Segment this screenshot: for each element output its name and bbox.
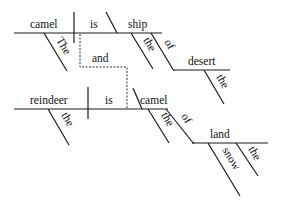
modifier-the-1: The xyxy=(54,35,74,57)
complement-1: ship xyxy=(128,18,147,31)
clause-1: camel is ship The the of desert the xyxy=(14,12,232,104)
verb-2: is xyxy=(105,94,113,106)
conjunction: and xyxy=(80,34,127,109)
complement-divider-1 xyxy=(106,12,117,33)
modifier-the-6: the xyxy=(246,144,264,162)
preposition-of-1: of xyxy=(162,37,177,52)
modifier-the-2: the xyxy=(141,35,159,53)
subject-2: reindeer xyxy=(30,94,68,106)
prep-object-land: land xyxy=(210,128,230,140)
conjunction-line xyxy=(80,34,127,109)
modifier-the-4: the xyxy=(59,110,77,128)
conjunction-and: and xyxy=(92,52,109,64)
verb-1: is xyxy=(90,18,98,30)
preposition-of-2: of xyxy=(179,111,194,126)
clause-2: reindeer is camel the the of land snow t… xyxy=(14,87,268,196)
modifier-the-3: the xyxy=(214,72,232,90)
complement-2: camel xyxy=(140,94,167,106)
sentence-diagram: camel is ship The the of desert the and … xyxy=(0,0,282,213)
subject-1: camel xyxy=(30,18,57,30)
prep-object-desert: desert xyxy=(188,55,216,67)
